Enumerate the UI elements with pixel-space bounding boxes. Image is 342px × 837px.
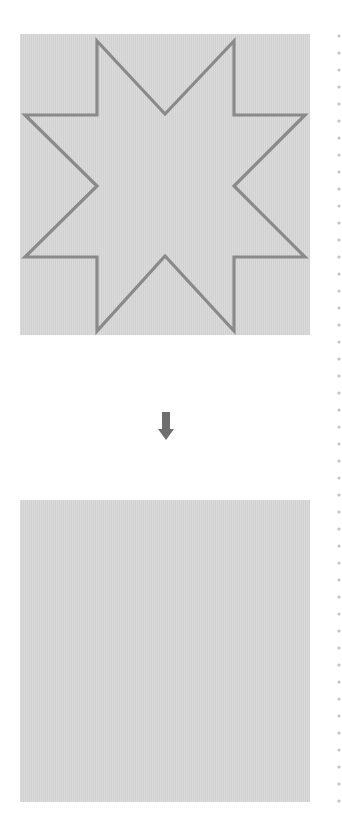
divider-dot xyxy=(337,119,340,122)
divider-dot xyxy=(337,544,340,547)
divider-dot xyxy=(337,595,340,598)
divider-dot xyxy=(337,85,340,88)
divider-dot xyxy=(337,442,340,445)
divider-dot xyxy=(337,578,340,581)
divider-dot xyxy=(337,391,340,394)
divider-dot xyxy=(337,51,340,54)
divider-dot xyxy=(337,748,340,751)
divider-dot xyxy=(337,646,340,649)
arrow-down-shape xyxy=(158,412,174,440)
dotted-divider xyxy=(336,30,342,810)
divider-dot xyxy=(337,238,340,241)
divider-dot xyxy=(337,493,340,496)
divider-dot xyxy=(337,408,340,411)
divider-dot xyxy=(337,374,340,377)
divider-dot xyxy=(337,306,340,309)
divider-dot xyxy=(337,799,340,802)
star-panel xyxy=(20,34,310,335)
divider-dot xyxy=(337,459,340,462)
divider-dot xyxy=(337,34,340,37)
divider-dot xyxy=(337,102,340,105)
divider-dot xyxy=(337,510,340,513)
divider-dot xyxy=(337,782,340,785)
divider-dot xyxy=(337,714,340,717)
divider-dot xyxy=(337,680,340,683)
arrow-down-icon xyxy=(157,410,175,442)
divider-dot xyxy=(337,170,340,173)
divider-dot xyxy=(337,425,340,428)
divider-dot xyxy=(337,561,340,564)
divider-dot xyxy=(337,765,340,768)
divider-dot xyxy=(337,272,340,275)
divider-dot xyxy=(337,68,340,71)
square-panel xyxy=(20,500,310,802)
divider-dot xyxy=(337,663,340,666)
divider-dot xyxy=(337,357,340,360)
divider-dot xyxy=(337,612,340,615)
divider-dot xyxy=(337,731,340,734)
divider-dot xyxy=(337,340,340,343)
divider-dot xyxy=(337,629,340,632)
divider-dot xyxy=(337,289,340,292)
divider-dot xyxy=(337,187,340,190)
divider-dot xyxy=(337,221,340,224)
divider-dot xyxy=(337,204,340,207)
divider-dot xyxy=(337,323,340,326)
divider-dot xyxy=(337,136,340,139)
divider-dot xyxy=(337,697,340,700)
divider-dot xyxy=(337,476,340,479)
divider-dot xyxy=(337,527,340,530)
divider-dot xyxy=(337,255,340,258)
divider-dot xyxy=(337,153,340,156)
